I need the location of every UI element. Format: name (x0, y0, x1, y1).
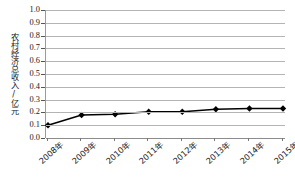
y-tick-mark (41, 10, 45, 11)
data-point-marker (279, 105, 285, 111)
gridline (46, 23, 285, 24)
y-tick-label: 0.3 (20, 95, 40, 103)
y-tick-mark (41, 36, 45, 37)
x-tick-mark (80, 138, 81, 141)
y-axis-title: 农村经济总收入/亿元 (6, 18, 20, 130)
x-tick-label: 2013年 (205, 140, 232, 166)
x-tick-label: 2010年 (104, 140, 131, 166)
y-tick-mark (41, 61, 45, 62)
x-tick-label: 2012年 (171, 140, 198, 166)
y-tick-mark (41, 87, 45, 88)
x-tick-mark (147, 138, 148, 141)
x-tick-label: 2014年 (238, 140, 265, 166)
y-tick-mark (41, 100, 45, 101)
gridline (46, 48, 285, 49)
y-tick-label: 0.6 (20, 57, 40, 65)
y-tick-label: 0.4 (20, 83, 40, 91)
x-tick-mark (248, 138, 249, 141)
y-tick-label: 0.5 (20, 70, 40, 78)
y-tick-label: 0.1 (20, 121, 40, 129)
x-tick-label: 2009年 (71, 140, 98, 166)
x-tick-mark (282, 138, 283, 141)
gridline (46, 10, 285, 11)
y-tick-label: 0.0 (20, 134, 40, 142)
line-chart: 农村经济总收入/亿元 0.00.10.20.30.40.50.60.70.80.… (0, 0, 295, 184)
x-tick-label: 2015年 (272, 140, 295, 166)
y-tick-label: 0.2 (20, 108, 40, 116)
gridline (46, 87, 285, 88)
y-tick-label: 1.0 (20, 6, 40, 14)
plot-area (45, 10, 285, 138)
y-tick-mark (41, 48, 45, 49)
gridline (46, 61, 285, 62)
y-tick-mark (41, 138, 45, 139)
y-tick-mark (41, 125, 45, 126)
x-tick-mark (47, 138, 48, 141)
y-tick-mark (41, 74, 45, 75)
y-tick-mark (41, 112, 45, 113)
gridline (46, 112, 285, 113)
gridline (46, 100, 285, 101)
y-tick-label: 0.9 (20, 19, 40, 27)
x-tick-mark (181, 138, 182, 141)
gridline (46, 36, 285, 37)
x-tick-label: 2011年 (138, 140, 165, 166)
x-tick-label: 2008年 (37, 140, 64, 166)
y-tick-label: 0.8 (20, 31, 40, 39)
gridline (46, 125, 285, 126)
x-axis-tick-labels: 2008年2009年2010年2011年2012年2013年2014年2015年 (45, 138, 284, 184)
data-point-marker (246, 105, 252, 111)
series-line (48, 109, 283, 126)
x-tick-mark (114, 138, 115, 141)
gridline (46, 74, 285, 75)
y-tick-label: 0.7 (20, 44, 40, 52)
x-tick-mark (214, 138, 215, 141)
y-tick-mark (41, 23, 45, 24)
y-axis-tick-labels: 0.00.10.20.30.40.50.60.70.80.91.0 (20, 10, 40, 138)
